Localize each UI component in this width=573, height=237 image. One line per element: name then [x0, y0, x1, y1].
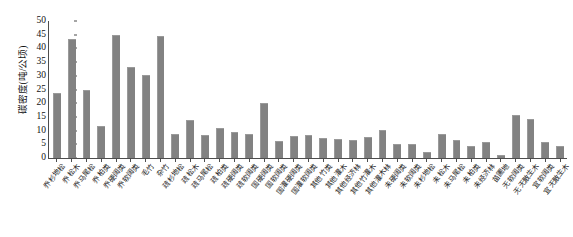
- bar: [541, 142, 549, 158]
- x-axis-tick-mark: [338, 159, 339, 162]
- bar: [393, 144, 401, 158]
- bar: [467, 146, 475, 158]
- bar: [171, 134, 179, 158]
- bar: [157, 36, 165, 158]
- x-axis-tick-mark: [560, 159, 561, 162]
- bar: [201, 135, 209, 158]
- x-axis-tick-mark: [323, 159, 324, 162]
- x-axis-tick-mark: [219, 159, 220, 162]
- bar: [97, 126, 105, 159]
- x-axis-tick-mark: [352, 159, 353, 162]
- y-axis-tick-label: 30: [37, 71, 47, 81]
- x-axis-tick-mark: [530, 159, 531, 162]
- bar: [527, 119, 535, 158]
- bar: [423, 152, 431, 158]
- bar: [68, 39, 76, 158]
- x-axis-tick-mark: [145, 159, 146, 162]
- x-axis-tick-mark: [101, 159, 102, 162]
- bar: [408, 144, 416, 158]
- x-axis-tick-mark: [456, 159, 457, 162]
- x-axis-tick-mark: [264, 159, 265, 162]
- bar: [512, 115, 520, 158]
- x-axis-tick-mark: [308, 159, 309, 162]
- x-axis-tick-mark: [426, 159, 427, 162]
- y-axis-tick-label: 45: [37, 30, 47, 40]
- plot-area: [49, 21, 567, 158]
- x-axis-tick-mark: [397, 159, 398, 162]
- bar: [186, 120, 194, 158]
- bar: [364, 137, 372, 158]
- bar: [349, 140, 357, 158]
- bar: [216, 128, 224, 158]
- x-axis-tick-mark: [278, 159, 279, 162]
- y-axis-tick-label: 0: [41, 153, 46, 163]
- x-axis-tick-mark: [56, 159, 57, 162]
- x-axis-tick-mark: [86, 159, 87, 162]
- bar: [290, 136, 298, 158]
- x-axis-tick-mark: [116, 159, 117, 162]
- y-axis-tick-label: 50: [37, 16, 47, 26]
- x-axis-tick-mark: [234, 159, 235, 162]
- x-axis-tick-mark: [249, 159, 250, 162]
- y-axis-tick-label: 10: [37, 126, 47, 136]
- y-axis-tick-label: 40: [37, 44, 47, 54]
- bar: [142, 75, 150, 158]
- x-axis-category-labels: 乔 杉地松乔 松木乔 马尾松乔 柏类乔 硬阔类乔 软阔类毛竹杂竹疏 杉地松疏 松…: [49, 163, 567, 237]
- bar: [319, 138, 327, 158]
- x-axis-tick-mark: [486, 159, 487, 162]
- y-axis-tick-label: 35: [37, 57, 47, 67]
- bar: [112, 35, 120, 158]
- bar: [260, 103, 268, 158]
- bar: [83, 90, 91, 158]
- x-axis-tick-mark: [190, 159, 191, 162]
- bar: [482, 142, 490, 158]
- x-axis-tick-mark: [204, 159, 205, 162]
- x-axis-tick-mark: [471, 159, 472, 162]
- x-axis-tick-mark: [293, 159, 294, 162]
- y-axis-tick-label: 15: [37, 112, 47, 122]
- x-axis-tick-mark: [382, 159, 383, 162]
- bar: [245, 134, 253, 158]
- y-axis-tick-labels: 05101520253035404550: [26, 16, 46, 160]
- x-axis-tick-mark: [441, 159, 442, 162]
- bar: [305, 135, 313, 158]
- bar: [497, 155, 505, 158]
- y-axis-tick-label: 5: [41, 140, 46, 150]
- bar-chart: 碳密度(吨/公顷) 05101520253035404550 乔 杉地松乔 松木…: [0, 0, 573, 237]
- y-axis-tick-label: 25: [37, 85, 47, 95]
- x-axis-tick-mark: [71, 159, 72, 162]
- x-axis-category-label: 毛竹: [141, 163, 156, 179]
- bar: [379, 130, 387, 158]
- bar: [556, 146, 564, 159]
- x-axis-tick-mark: [175, 159, 176, 162]
- bar: [53, 93, 61, 158]
- y-axis-tick-label: 20: [37, 98, 47, 108]
- bar: [334, 139, 342, 158]
- x-axis-tick-mark: [500, 159, 501, 162]
- x-axis-tick-mark: [515, 159, 516, 162]
- bar: [231, 132, 239, 158]
- bar: [438, 134, 446, 158]
- bar: [275, 141, 283, 158]
- x-axis-tick-mark: [412, 159, 413, 162]
- x-axis-tick-mark: [160, 159, 161, 162]
- bar: [127, 67, 135, 158]
- x-axis-tick-mark: [367, 159, 368, 162]
- x-axis-tick-mark: [545, 159, 546, 162]
- bar: [453, 140, 461, 158]
- x-axis-tick-mark: [130, 159, 131, 162]
